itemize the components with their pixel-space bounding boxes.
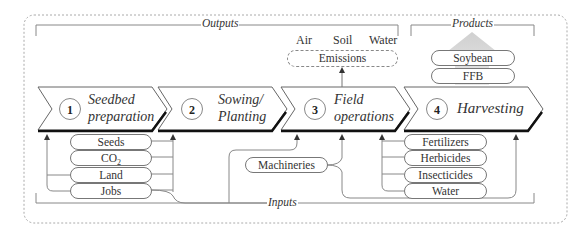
- input-machineries: Machineries: [245, 157, 328, 173]
- step-3-number: 3: [304, 98, 326, 120]
- emission-target-soil: Soil: [333, 33, 352, 48]
- input-insecticides: Insecticides: [404, 167, 487, 183]
- step-1-label: Seedbed preparation: [88, 91, 154, 125]
- step-1-number: 1: [59, 98, 81, 120]
- products-label: Products: [451, 17, 494, 29]
- step-4-number: 4: [426, 98, 448, 120]
- co2-base: CO: [101, 152, 117, 164]
- emission-target-air: Air: [296, 33, 312, 48]
- emission-target-water: Water: [369, 33, 397, 48]
- step-3-line1: Field: [334, 91, 394, 108]
- product-ffb: FFB: [431, 68, 515, 84]
- input-herbicides: Herbicides: [404, 150, 487, 166]
- step-2-number: 2: [181, 98, 203, 120]
- co2-sub: 2: [117, 158, 121, 167]
- input-co2: CO2: [70, 150, 152, 166]
- input-jobs: Jobs: [70, 183, 152, 199]
- outputs-label: Outputs: [201, 17, 239, 29]
- inputs-label: Inputs: [267, 196, 298, 208]
- step-4-label: Harvesting: [457, 100, 524, 117]
- input-land: Land: [70, 167, 152, 183]
- emissions-box: Emissions: [287, 50, 398, 67]
- step-3-label: Field operations: [334, 91, 394, 125]
- step-2-label: Sowing/ Planting: [218, 91, 266, 125]
- step-1-line2: preparation: [88, 108, 154, 125]
- input-water: Water: [404, 183, 487, 199]
- step-2-line2: Planting: [218, 108, 266, 125]
- input-seeds: Seeds: [70, 134, 152, 150]
- input-fertilizers: Fertilizers: [404, 134, 487, 150]
- step-1-line1: Seedbed: [88, 91, 154, 108]
- product-soybean: Soybean: [431, 50, 515, 66]
- step-2-line1: Sowing/: [218, 91, 266, 108]
- step-3-line2: operations: [334, 108, 394, 125]
